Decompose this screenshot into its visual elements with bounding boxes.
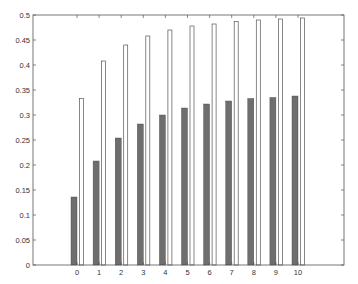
bars-group <box>71 18 305 265</box>
x-axis: 012345678910 <box>75 15 302 277</box>
y-tick-label: 0.4 <box>20 61 30 70</box>
bar-white-3 <box>146 36 150 265</box>
bar-white-10 <box>301 18 305 265</box>
x-tick-label: 7 <box>230 268 234 277</box>
bar-white-8 <box>256 20 260 265</box>
bar-dark-5 <box>182 108 188 265</box>
bar-dark-8 <box>248 99 254 266</box>
bar-dark-0 <box>71 197 77 265</box>
bar-dark-10 <box>292 96 298 265</box>
y-tick-label: 0.35 <box>15 86 30 95</box>
y-tick-label: 0 <box>26 261 30 270</box>
bar-white-1 <box>102 61 106 265</box>
x-tick-label: 1 <box>97 268 101 277</box>
bar-white-9 <box>278 19 282 265</box>
y-tick-label: 0.25 <box>15 136 30 145</box>
x-tick-label: 5 <box>185 268 189 277</box>
bar-white-0 <box>80 99 84 266</box>
bar-white-5 <box>190 26 194 265</box>
bar-dark-9 <box>270 98 276 266</box>
y-tick-label: 0.05 <box>15 236 30 245</box>
y-tick-label: 0.3 <box>20 111 30 120</box>
x-tick-label: 10 <box>294 268 302 277</box>
y-tick-label: 0.2 <box>20 161 30 170</box>
x-tick-label: 0 <box>75 268 79 277</box>
bar-dark-2 <box>115 138 121 265</box>
y-tick-label: 0.1 <box>20 211 30 220</box>
y-tick-label: 0.5 <box>20 11 30 20</box>
bar-dark-7 <box>226 101 232 265</box>
bar-dark-6 <box>204 104 210 265</box>
x-tick-label: 8 <box>252 268 256 277</box>
bar-white-2 <box>124 45 128 265</box>
x-tick-label: 4 <box>163 268 167 277</box>
x-tick-label: 2 <box>119 268 123 277</box>
bar-dark-3 <box>137 124 143 265</box>
x-tick-label: 6 <box>208 268 212 277</box>
bar-white-6 <box>212 24 216 265</box>
bar-chart: 00.050.10.150.20.250.30.350.40.450.5 012… <box>0 0 358 284</box>
y-tick-label: 0.15 <box>15 186 30 195</box>
bar-white-4 <box>168 30 172 265</box>
bar-white-7 <box>234 22 238 266</box>
y-tick-label: 0.45 <box>15 36 30 45</box>
bar-dark-1 <box>93 161 99 265</box>
bar-dark-4 <box>159 115 165 265</box>
x-tick-label: 9 <box>274 268 278 277</box>
x-tick-label: 3 <box>141 268 145 277</box>
